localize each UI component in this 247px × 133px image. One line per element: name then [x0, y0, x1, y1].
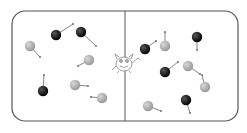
slow-molecule	[183, 61, 193, 71]
maxwell-demon-diagram	[0, 0, 247, 133]
fast-molecule	[140, 44, 150, 54]
slow-molecule	[25, 41, 35, 51]
arrow-tip	[77, 65, 79, 67]
fast-molecule	[76, 27, 86, 37]
arrow-tip	[155, 40, 157, 42]
fast-molecule	[160, 67, 170, 77]
arrow-tip	[199, 73, 201, 75]
arrow-tip	[160, 110, 162, 112]
slow-molecule	[200, 82, 210, 92]
slow-molecule	[160, 41, 170, 51]
slow-molecule	[143, 101, 153, 111]
fast-molecule	[38, 86, 48, 96]
arrow-tip	[196, 49, 198, 51]
slow-molecule	[70, 80, 80, 90]
arrow-tip	[39, 56, 41, 58]
slow-molecule	[84, 55, 94, 65]
fast-molecule	[51, 30, 61, 40]
arrow-tip	[177, 61, 179, 63]
arrow-tip	[189, 112, 191, 114]
arrow-tip	[87, 85, 89, 87]
arrow-tip	[43, 74, 45, 76]
fast-molecule	[192, 32, 202, 42]
arrow-tip	[95, 45, 97, 47]
slow-molecule	[97, 93, 107, 103]
arrow-tip	[72, 23, 74, 25]
arrow-tip	[164, 31, 166, 33]
fast-molecule	[181, 95, 191, 105]
arrow-tip	[90, 96, 92, 98]
arrow-tip	[201, 74, 203, 76]
